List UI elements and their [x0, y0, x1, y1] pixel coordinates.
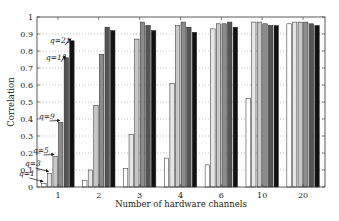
bar — [187, 27, 191, 187]
bar — [47, 173, 51, 187]
y-tick-label: 0.8 — [20, 47, 33, 56]
annotation-label: q=3 — [25, 159, 41, 168]
x-tick-label: 10 — [257, 191, 267, 200]
y-tick-label: 0 — [28, 183, 33, 192]
bar — [211, 29, 215, 187]
bar — [274, 26, 278, 188]
bar — [151, 31, 155, 187]
x-tick-label: 1 — [55, 191, 60, 200]
bar — [298, 22, 302, 187]
bar — [268, 26, 272, 188]
y-tick-label: 0.2 — [20, 149, 33, 158]
bar — [140, 22, 144, 187]
x-axis-label: Number of hardware channels — [115, 199, 247, 209]
bar — [315, 26, 319, 188]
bar — [64, 58, 68, 187]
bar — [170, 83, 174, 187]
bar — [233, 27, 237, 187]
bar — [192, 32, 196, 187]
bar — [146, 26, 150, 188]
bar — [83, 180, 87, 187]
bar — [129, 134, 133, 187]
bar — [292, 22, 296, 187]
bar — [70, 41, 74, 187]
bar — [99, 54, 103, 187]
bar — [205, 165, 209, 187]
y-tick-label: 1 — [28, 13, 33, 22]
y-tick-label: 0.9 — [20, 30, 33, 39]
y-axis-label: Correlation — [6, 77, 16, 127]
bar — [228, 22, 232, 187]
y-tick-label: 0.3 — [20, 132, 33, 141]
y-tick-label: 0.4 — [20, 115, 33, 124]
annotation-arrow — [30, 178, 43, 182]
bar — [164, 158, 168, 187]
annotation-label: q=1 — [19, 169, 35, 178]
bar — [263, 24, 267, 187]
bar-chart: 00.10.20.30.40.50.60.70.80.91 123461020 … — [0, 0, 339, 221]
bar — [304, 22, 308, 187]
bar — [216, 24, 220, 187]
bar — [246, 99, 250, 187]
bar — [105, 27, 109, 187]
bar — [181, 22, 185, 187]
bar — [222, 24, 226, 187]
bar — [94, 105, 98, 187]
bar — [135, 39, 139, 187]
y-tick-label: 0.7 — [20, 64, 33, 73]
annotation-label: q=21 — [50, 36, 71, 45]
x-tick-label: 20 — [298, 191, 308, 200]
y-tick-label: 0.5 — [20, 98, 33, 107]
bar — [257, 22, 261, 187]
bar — [88, 170, 92, 187]
bar — [53, 156, 57, 187]
y-tick-label: 0.6 — [20, 81, 33, 90]
bar — [111, 31, 115, 187]
annotation-label: q=5 — [33, 146, 49, 155]
bar — [309, 24, 313, 187]
bar — [287, 24, 291, 187]
bar — [252, 22, 256, 187]
bar — [42, 184, 46, 187]
bar — [59, 122, 63, 187]
bar-series — [42, 22, 320, 187]
annotation-label: q=9 — [39, 112, 55, 121]
bar — [123, 168, 127, 187]
bar — [175, 26, 179, 188]
x-tick-label: 2 — [96, 191, 101, 200]
